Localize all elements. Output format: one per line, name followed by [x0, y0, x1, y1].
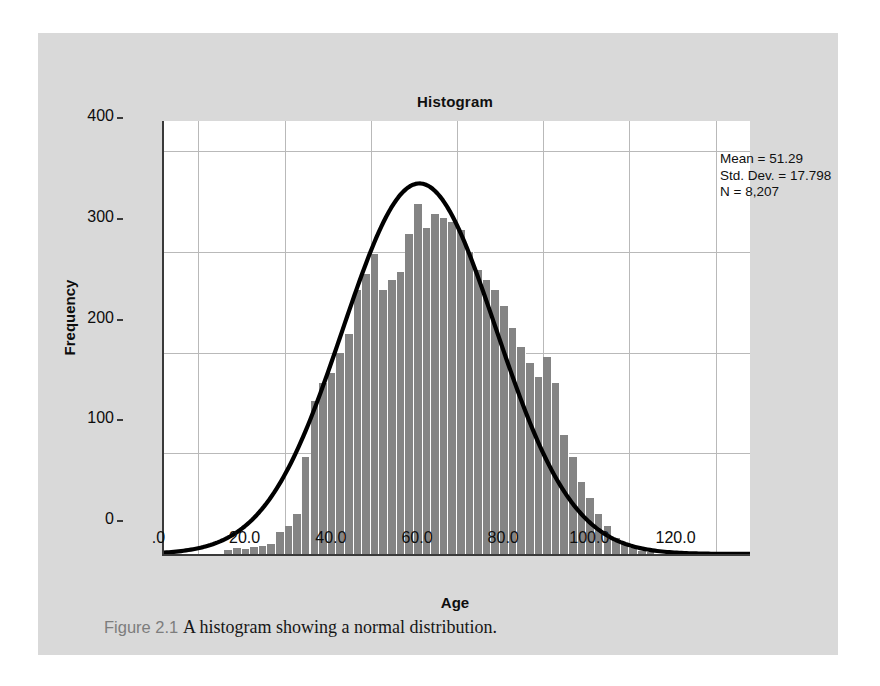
y-axis-tick-mark [117, 319, 123, 321]
x-axis-tick-label: 120.0 [641, 529, 711, 547]
histogram-bar [535, 377, 544, 554]
histogram-bar [336, 353, 345, 554]
histogram-bar [242, 549, 251, 554]
histogram-bar [328, 373, 337, 554]
histogram-bar [362, 274, 371, 554]
histogram-bar [457, 230, 466, 554]
histogram-bar [250, 547, 259, 554]
figure-caption: Figure 2.1 A histogram showing a normal … [104, 617, 497, 638]
histogram-bar [491, 290, 500, 554]
histogram-bar [543, 357, 552, 554]
y-axis-tick-label: 0 [54, 510, 114, 528]
histogram-bar [379, 290, 388, 554]
histogram-bar [647, 552, 656, 554]
histogram-bar [397, 272, 406, 554]
y-axis-tick-label: 100 [54, 409, 114, 427]
y-axis-tick-mark [117, 520, 123, 522]
histogram-bar [431, 214, 440, 554]
x-axis-tick-label: 80.0 [468, 529, 538, 547]
x-axis-tick-label: 60.0 [382, 529, 452, 547]
figure-panel: Histogram Age Frequency Mean = 51.29 Std… [38, 33, 838, 655]
histogram-bar [423, 228, 432, 554]
histogram-bar [371, 254, 380, 554]
histogram-bar [474, 270, 483, 554]
x-axis-tick-label: 20.0 [210, 529, 280, 547]
stat-n: N = 8,207 [720, 184, 831, 201]
histogram-bar [517, 347, 526, 554]
plot-canvas [164, 121, 750, 554]
histogram-bar [259, 546, 268, 554]
gridline-vertical [629, 121, 630, 554]
caption-description: A histogram showing a normal distributio… [183, 617, 497, 637]
y-axis-tick-label: 300 [54, 208, 114, 226]
y-axis-tick-mark [117, 218, 123, 220]
histogram-bar [638, 551, 647, 554]
histogram-bar [345, 334, 354, 554]
x-axis-tick-label: 100.0 [554, 529, 624, 547]
y-axis-tick-label: 400 [54, 107, 114, 125]
histogram-bar [285, 526, 294, 554]
histogram-bar [414, 204, 423, 554]
x-axis-label: Age [162, 594, 748, 611]
histogram-bar [233, 548, 242, 554]
x-axis-tick-label: .0 [123, 529, 193, 547]
histogram-bar [405, 234, 414, 554]
stat-mean: Mean = 51.29 [720, 151, 831, 168]
histogram-bar [509, 328, 518, 554]
histogram-bar [466, 252, 475, 554]
y-axis-tick-label: 200 [54, 309, 114, 327]
gridline-vertical [285, 121, 286, 554]
caption-figure-number: Figure 2.1 [104, 618, 178, 636]
histogram-bar [629, 548, 638, 554]
figure-root: Histogram Age Frequency Mean = 51.29 Std… [0, 0, 880, 686]
statistics-annotation: Mean = 51.29 Std. Dev. = 17.798 N = 8,20… [720, 151, 831, 201]
histogram-bar [483, 280, 492, 554]
gridline-vertical [716, 121, 717, 554]
histogram-bar [224, 550, 233, 554]
x-axis-tick-label: 40.0 [296, 529, 366, 547]
histogram-bar [388, 280, 397, 554]
histogram-bar [440, 218, 449, 554]
histogram-bar [500, 306, 509, 554]
stat-std-dev: Std. Dev. = 17.798 [720, 168, 831, 185]
gridline-vertical [198, 121, 199, 554]
plot-area [162, 121, 750, 556]
y-axis-tick-mark [117, 419, 123, 421]
chart-title: Histogram [162, 93, 748, 110]
y-axis-tick-mark [117, 117, 123, 119]
histogram-bar [448, 222, 457, 554]
histogram-bar [354, 290, 363, 554]
histogram-bar [526, 363, 535, 554]
